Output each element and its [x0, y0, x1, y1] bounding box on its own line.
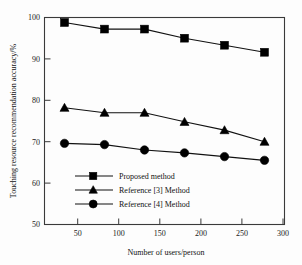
data-point	[60, 139, 68, 147]
series-circle	[60, 139, 268, 164]
x-axis-title: Number of users/person	[128, 248, 205, 257]
data-point	[101, 25, 109, 33]
chart-figure: 50 60 70 80 90 100 50 100 150 200 250 30…	[0, 0, 302, 265]
data-point	[180, 149, 188, 157]
x-axis-ticks	[78, 219, 283, 225]
data-point	[60, 103, 69, 111]
data-point	[61, 19, 69, 27]
data-point	[181, 34, 189, 42]
line-chart: 50 60 70 80 90 100 50 100 150 200 250 30…	[0, 0, 302, 265]
data-point	[260, 156, 268, 164]
y-axis-title: Touching resource recommendation accurac…	[9, 44, 18, 199]
data-point	[220, 152, 228, 160]
series-line-1	[65, 108, 265, 142]
y-tick-label-100: 100	[28, 13, 40, 22]
series-line-2	[65, 143, 265, 160]
series-line-0	[65, 22, 265, 52]
x-tick-label-50: 50	[74, 229, 82, 238]
y-tick-label-70: 70	[32, 138, 40, 147]
x-tick-label-150: 150	[154, 229, 166, 238]
y-tick-label-50: 50	[32, 220, 40, 229]
data-point	[100, 140, 108, 148]
data-point	[141, 25, 149, 33]
data-point	[261, 48, 269, 56]
series-triangle	[60, 103, 269, 145]
legend-item-reference-3-method[interactable]: Reference [3] Method	[75, 186, 190, 195]
x-tick-label-200: 200	[195, 229, 207, 238]
legend-item-reference-4-method[interactable]: Reference [4] Method	[75, 200, 190, 209]
square-marker-icon	[90, 172, 97, 179]
data-point	[140, 146, 148, 154]
x-tick-label-300: 300	[277, 229, 289, 238]
legend-item-proposed-method[interactable]: Proposed method	[75, 172, 175, 181]
series-square	[61, 19, 269, 57]
y-tick-label-60: 60	[32, 179, 40, 188]
y-tick-label-90: 90	[32, 55, 40, 64]
legend-label-0: Proposed method	[119, 172, 175, 181]
x-tick-label-100: 100	[113, 229, 125, 238]
data-point	[221, 41, 229, 49]
y-tick-label-80: 80	[32, 96, 40, 105]
circle-marker-icon	[89, 200, 97, 208]
legend: Proposed method Reference [3] Method Ref…	[75, 172, 190, 209]
legend-label-1: Reference [3] Method	[119, 186, 190, 195]
legend-label-2: Reference [4] Method	[119, 200, 190, 209]
series-layer	[60, 19, 269, 165]
x-tick-label-250: 250	[236, 229, 248, 238]
y-axis-ticks	[45, 18, 51, 225]
